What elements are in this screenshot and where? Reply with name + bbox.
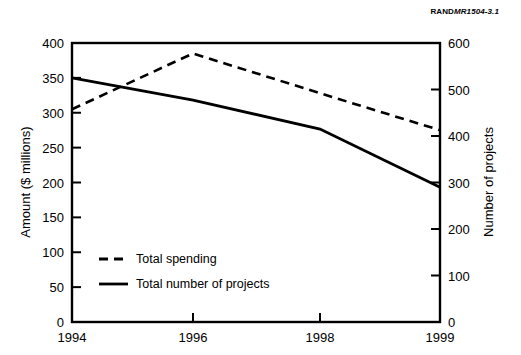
x-tick-label: 1999 — [426, 330, 455, 345]
right-tick-label: 100 — [448, 269, 470, 284]
left-tick-label: 100 — [42, 245, 64, 260]
left-tick-label: 200 — [42, 176, 64, 191]
right-tick-label: 0 — [448, 315, 455, 330]
left-tick-label: 400 — [42, 36, 64, 51]
line-chart: 050100150200250300350400 010020030040050… — [0, 0, 521, 355]
x-tick-label: 1994 — [58, 330, 87, 345]
left-axis-ticks: 050100150200250300350400 — [42, 36, 81, 330]
right-tick-label: 400 — [448, 129, 470, 144]
chart-legend: Total spending Total number of projects — [99, 252, 269, 291]
right-tick-label: 600 — [448, 36, 470, 51]
left-tick-label: 300 — [42, 106, 64, 121]
left-tick-label: 150 — [42, 210, 64, 225]
x-axis-ticks: 1994199619981999 — [58, 313, 455, 345]
right-tick-label: 200 — [448, 222, 470, 237]
left-tick-label: 350 — [42, 71, 64, 86]
right-axis-ticks: 0100200300400500600 — [431, 36, 470, 330]
series-line-total-number-of-projects — [72, 78, 440, 187]
x-tick-label: 1996 — [179, 330, 208, 345]
right-tick-label: 500 — [448, 83, 470, 98]
legend-label-total-spending: Total spending — [136, 252, 217, 266]
series-line-total-spending — [72, 53, 440, 130]
legend-label-total-number-of-projects: Total number of projects — [136, 277, 269, 291]
figure-container: RANDMR1504-3.1 050100150200250300350400 … — [0, 0, 521, 355]
left-axis-title: Amount ($ millions) — [18, 126, 33, 237]
right-tick-label: 300 — [448, 176, 470, 191]
left-tick-label: 50 — [50, 280, 64, 295]
x-tick-label: 1998 — [306, 330, 335, 345]
left-tick-label: 0 — [57, 315, 64, 330]
right-axis-title: Number of projects — [481, 127, 496, 237]
left-tick-label: 250 — [42, 141, 64, 156]
